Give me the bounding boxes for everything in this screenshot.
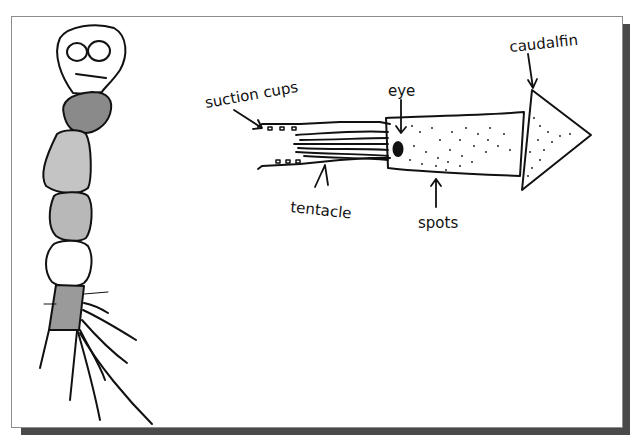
larva-bristle [83, 310, 136, 340]
larva-bristle [82, 320, 127, 363]
label-spots: spots [418, 214, 458, 232]
squid-caudal-fin [522, 90, 591, 190]
drawing-canvas: suction cups eye caudalfin tentacle spot… [0, 0, 636, 443]
larva-bristle [40, 330, 49, 368]
squid-eye [394, 142, 403, 156]
larva-segment-1 [63, 92, 111, 133]
larva-bristle [70, 331, 77, 400]
larva-segment-2 [43, 130, 91, 193]
squid-figure [234, 54, 591, 207]
larva-mouth [76, 74, 106, 78]
label-suction-cups: suction cups [204, 78, 300, 112]
arrow-spots [431, 179, 441, 207]
larva-tail-base [49, 285, 84, 330]
larva-segment-4 [46, 241, 91, 287]
larva-figure [40, 25, 152, 424]
squid-tentacles [294, 131, 388, 160]
label-caudal-fin: caudalfin [509, 31, 579, 56]
arrow-suction-cups [234, 110, 262, 129]
arrow-tentacle [315, 165, 328, 187]
larva-head [57, 25, 125, 93]
larva-eye-right [88, 41, 110, 61]
arrow-caudal-fin [528, 54, 537, 88]
larva-segment-3 [50, 192, 92, 241]
squid-arm-top [258, 122, 390, 127]
label-eye: eye [388, 82, 415, 100]
label-tentacle: tentacle [290, 198, 353, 222]
squid-mantle [386, 112, 524, 176]
suction-cups [268, 127, 300, 163]
squid-spots [409, 117, 571, 177]
larva-eye-left [67, 43, 87, 61]
